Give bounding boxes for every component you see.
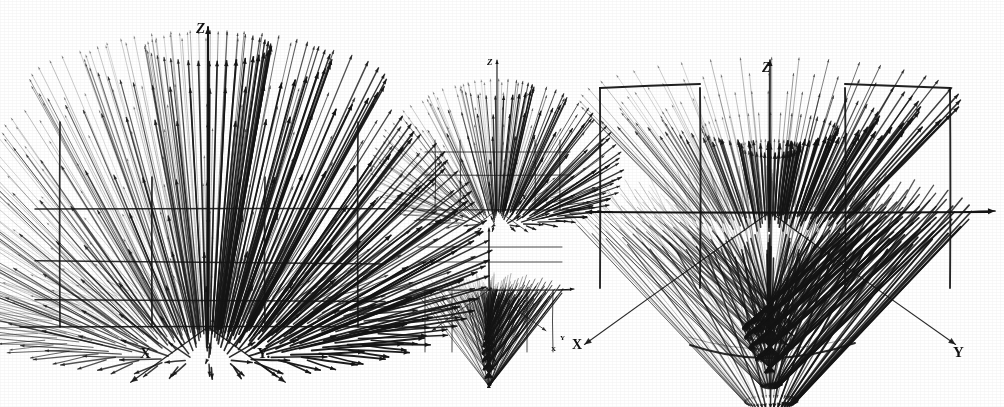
axis-label-y-left: Y. [257,345,270,362]
axis-label-x-mid-top: X [462,193,467,201]
axis-label-z-mid-bottom: Z [477,227,482,236]
axis-label-z-mid-top: Z [487,57,493,67]
axis-label-z-left: Z [196,20,205,37]
axis-label-x-right: X [572,337,582,353]
axis-label-x-mid-bottom: X [551,345,556,353]
axis-label-y-mid-top: Y [522,193,527,201]
axis-label-z-right: Z [762,60,771,76]
axis-label-y-mid-bottom: Y [560,334,565,342]
figure-canvas: Z X Y. Z X Y Z X Y Z X Y [0,0,1004,407]
axis-label-x-left: X [140,345,151,362]
axis-label-y-right: Y [953,344,964,361]
